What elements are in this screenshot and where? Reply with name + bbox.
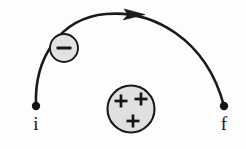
physics-diagram-figure: i f [0, 0, 246, 149]
negative-charge-group [50, 34, 78, 62]
positive-charge-group [108, 86, 155, 133]
final-point-dot [220, 102, 228, 110]
initial-point-dot [32, 102, 40, 110]
positive-charge-circle [108, 86, 155, 133]
minus-sign-icon [57, 47, 72, 50]
initial-point-label: i [26, 114, 46, 133]
final-point-label: f [214, 114, 234, 133]
